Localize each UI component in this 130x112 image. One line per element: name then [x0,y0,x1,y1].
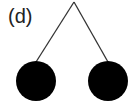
left-string [36,2,74,62]
left-ball [16,61,56,101]
right-ball [88,61,128,101]
pendulum-diagram [0,0,130,112]
right-string [74,2,108,62]
